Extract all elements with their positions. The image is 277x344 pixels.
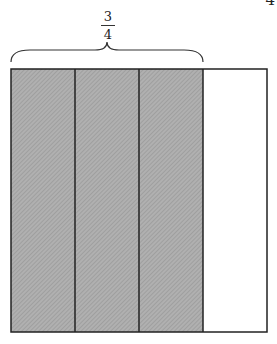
fraction-diagram: [0, 0, 277, 344]
shaded-part-3: [139, 69, 203, 332]
unshaded-part-4: [203, 69, 267, 332]
shaded-part-2: [75, 69, 139, 332]
shaded-part-1: [11, 69, 75, 332]
brace-icon: [11, 42, 203, 62]
